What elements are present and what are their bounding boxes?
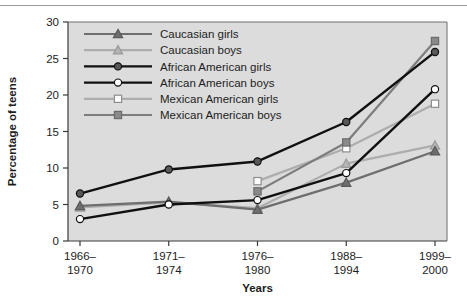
data-point-marker xyxy=(254,188,261,195)
svg-text:1994: 1994 xyxy=(333,264,359,276)
legend-label: Caucasian boys xyxy=(160,44,242,56)
data-point-marker xyxy=(114,79,121,86)
svg-text:1970: 1970 xyxy=(67,264,93,276)
data-point-marker xyxy=(114,63,121,70)
y-axis-tick-label: 30 xyxy=(46,16,59,28)
line-chart: 051015202530Percentage of teens1966–1970… xyxy=(0,0,467,304)
x-axis-tick-label: 1976–1980 xyxy=(242,250,275,276)
svg-text:1966–: 1966– xyxy=(64,250,97,262)
data-point-marker xyxy=(431,100,438,107)
data-point-marker xyxy=(165,166,172,173)
x-axis-tick-label: 1999–2000 xyxy=(419,250,452,276)
data-point-marker xyxy=(76,190,83,197)
chart-figure: 051015202530Percentage of teens1966–1970… xyxy=(0,0,467,304)
svg-text:1974: 1974 xyxy=(156,264,182,276)
svg-text:1976–: 1976– xyxy=(242,250,275,262)
legend-label: Mexican American girls xyxy=(160,93,278,105)
y-axis-tick-label: 15 xyxy=(46,126,59,138)
legend-label: Caucasian girls xyxy=(160,28,239,40)
y-axis-tick-label: 25 xyxy=(46,53,59,65)
data-point-marker xyxy=(254,197,261,204)
data-point-marker xyxy=(343,139,350,146)
data-point-marker xyxy=(114,95,121,102)
y-axis-title: Percentage of teens xyxy=(6,77,18,186)
y-axis-tick-label: 0 xyxy=(53,235,59,247)
data-point-marker xyxy=(343,118,350,125)
legend-label: African American girls xyxy=(160,61,271,73)
y-axis-tick-label: 20 xyxy=(46,89,59,101)
header-divider-rule xyxy=(0,5,467,6)
data-point-marker xyxy=(343,170,350,177)
data-point-marker xyxy=(431,48,438,55)
data-point-marker xyxy=(114,111,121,118)
svg-text:1980: 1980 xyxy=(245,264,271,276)
legend-label: African American boys xyxy=(160,77,275,89)
x-axis-tick-label: 1988–1994 xyxy=(330,250,363,276)
svg-text:1999–: 1999– xyxy=(419,250,452,262)
data-point-marker xyxy=(254,158,261,165)
svg-text:1988–: 1988– xyxy=(330,250,363,262)
data-point-marker xyxy=(76,216,83,223)
y-axis-tick-label: 10 xyxy=(46,162,59,174)
x-axis-title: Years xyxy=(242,282,273,294)
y-axis-tick-label: 5 xyxy=(53,199,59,211)
legend-label: Mexican American boys xyxy=(160,109,282,121)
x-axis-tick-label: 1971–1974 xyxy=(153,250,186,276)
data-point-marker xyxy=(165,201,172,208)
data-point-marker xyxy=(431,37,438,44)
x-axis-tick-label: 1966–1970 xyxy=(64,250,97,276)
svg-text:2000: 2000 xyxy=(422,264,448,276)
data-point-marker xyxy=(431,86,438,93)
svg-text:1971–: 1971– xyxy=(153,250,186,262)
data-point-marker xyxy=(254,178,261,185)
